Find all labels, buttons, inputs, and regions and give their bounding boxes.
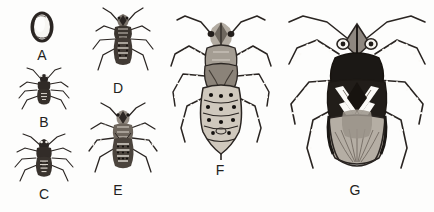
figure-label-c: C bbox=[24, 187, 64, 201]
figure-label-e: E bbox=[98, 183, 138, 197]
figure-label-f: F bbox=[200, 163, 240, 177]
figure-f-fifth-instar-nymph bbox=[167, 10, 275, 162]
figure-g-adult-bug bbox=[283, 8, 431, 180]
figure-d-third-instar-nymph bbox=[92, 6, 154, 80]
figure-e-fourth-instar-nymph bbox=[88, 102, 158, 182]
figure-a-egg bbox=[27, 9, 57, 45]
figure-label-g: G bbox=[335, 183, 375, 197]
figure-label-b: B bbox=[24, 115, 64, 129]
figure-label-a: A bbox=[22, 48, 62, 62]
figure-label-d: D bbox=[98, 81, 138, 95]
illustration-plate: A bbox=[0, 0, 434, 212]
figure-c-second-instar-nymph bbox=[13, 133, 75, 187]
figure-b-first-instar-nymph bbox=[16, 66, 72, 114]
